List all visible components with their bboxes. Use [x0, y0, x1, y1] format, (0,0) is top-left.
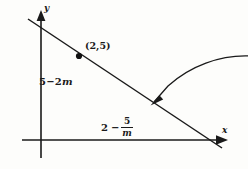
annotation-arrow-curve: [154, 56, 248, 102]
x-intercept-fraction: 5 m: [121, 117, 133, 138]
y-intercept-label: 5−2m: [39, 77, 73, 87]
x-intercept-label: 2 − 5 m: [101, 117, 133, 138]
x-intercept-operator: −: [111, 123, 119, 133]
point-marker-dot: [76, 53, 82, 59]
annotation-curved-arrow: [151, 56, 249, 106]
diagram-vector-layer: [0, 0, 248, 169]
y-intercept-coefficient: 2: [55, 76, 62, 87]
point-label: (2,5): [85, 41, 111, 51]
x-axis-arrowhead-icon: [216, 135, 228, 145]
fraction-numerator: 5: [123, 117, 131, 127]
math-diagram-canvas: y x (2,5) 5−2m 2 − 5 m: [0, 0, 248, 169]
fraction-denominator: m: [121, 128, 133, 138]
y-axis-label: y: [44, 4, 49, 13]
x-intercept-lead: 2: [101, 123, 108, 133]
x-axis-label: x: [222, 126, 227, 135]
y-intercept-variable: m: [62, 76, 73, 87]
y-intercept-operator: −: [46, 76, 55, 87]
